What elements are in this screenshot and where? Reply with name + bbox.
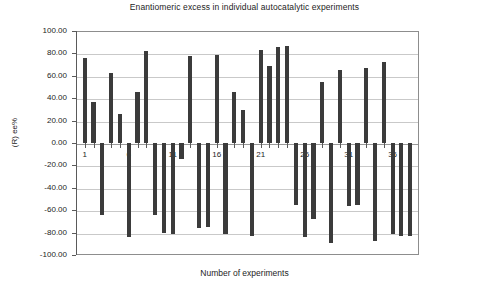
x-tick-label: 16 <box>212 150 221 159</box>
bar <box>171 143 175 234</box>
bar <box>355 143 359 205</box>
bar <box>100 143 104 215</box>
bar-chart: Enantiomeric excess in individual autoca… <box>0 0 489 288</box>
bar <box>294 143 298 205</box>
y-tick <box>72 121 76 122</box>
x-tick <box>261 143 262 148</box>
y-tick <box>72 255 76 256</box>
bar <box>109 73 113 143</box>
bar <box>215 55 219 143</box>
y-tick <box>72 76 76 77</box>
x-tick <box>234 143 235 148</box>
x-tick <box>111 143 112 148</box>
bar <box>408 143 412 236</box>
x-tick <box>243 143 244 148</box>
x-tick <box>384 143 385 148</box>
x-tick <box>138 143 139 148</box>
bar <box>347 143 351 206</box>
x-tick <box>85 143 86 148</box>
x-tick <box>146 143 147 148</box>
y-tick-label: -100.00 <box>7 250 67 259</box>
y-axis-title: (R) ee% <box>10 103 19 163</box>
x-tick <box>340 143 341 148</box>
bar <box>320 82 324 143</box>
bar <box>127 143 131 237</box>
y-tick-label: 80.00 <box>7 48 67 57</box>
gridline <box>77 54 418 55</box>
bar <box>382 62 386 143</box>
x-tick <box>366 143 367 148</box>
bar <box>118 114 122 143</box>
bar <box>311 143 315 219</box>
bar <box>329 143 333 243</box>
y-tick-label: -60.00 <box>7 205 67 214</box>
y-tick <box>72 165 76 166</box>
y-tick-label: 40.00 <box>7 93 67 102</box>
x-tick <box>322 143 323 148</box>
bar <box>241 110 245 143</box>
x-tick <box>278 143 279 148</box>
x-tick <box>94 143 95 148</box>
bar <box>135 92 139 143</box>
x-axis-title: Number of experiments <box>0 268 489 278</box>
bar <box>373 143 377 241</box>
bar <box>144 51 148 143</box>
bar <box>364 68 368 143</box>
bar <box>206 143 210 227</box>
bar <box>267 66 271 143</box>
bar <box>153 143 157 215</box>
y-tick-label: -80.00 <box>7 228 67 237</box>
y-tick <box>72 143 76 144</box>
bar <box>338 70 342 143</box>
y-tick <box>72 53 76 54</box>
y-tick <box>72 98 76 99</box>
y-tick <box>72 233 76 234</box>
y-tick-label: -40.00 <box>7 183 67 192</box>
x-tick <box>287 143 288 148</box>
y-tick-label: 60.00 <box>7 71 67 80</box>
bar <box>223 143 227 234</box>
x-tick <box>120 143 121 148</box>
x-tick-label: 21 <box>256 150 265 159</box>
bar <box>188 56 192 143</box>
bar <box>399 143 403 236</box>
x-tick <box>190 143 191 148</box>
y-tick-label: 20.00 <box>7 116 67 125</box>
x-tick <box>217 143 218 148</box>
bar <box>91 102 95 143</box>
x-tick <box>269 143 270 148</box>
y-tick-label: 100.00 <box>7 26 67 35</box>
bar <box>197 143 201 228</box>
bar <box>303 143 307 237</box>
bar <box>232 92 236 143</box>
y-tick-label: 0.00 <box>7 138 67 147</box>
chart-title: Enantiomeric excess in individual autoca… <box>0 2 489 12</box>
bar <box>259 50 263 143</box>
bar <box>391 143 395 234</box>
y-tick-label: -20.00 <box>7 160 67 169</box>
y-tick <box>72 210 76 211</box>
y-axis-line <box>76 31 77 255</box>
bar <box>276 47 280 143</box>
bar <box>162 143 166 233</box>
bar <box>285 46 289 143</box>
bar <box>179 143 183 159</box>
x-tick-label: 1 <box>83 150 87 159</box>
y-tick <box>72 188 76 189</box>
bar <box>250 143 254 236</box>
y-tick <box>72 31 76 32</box>
bar <box>83 58 87 143</box>
